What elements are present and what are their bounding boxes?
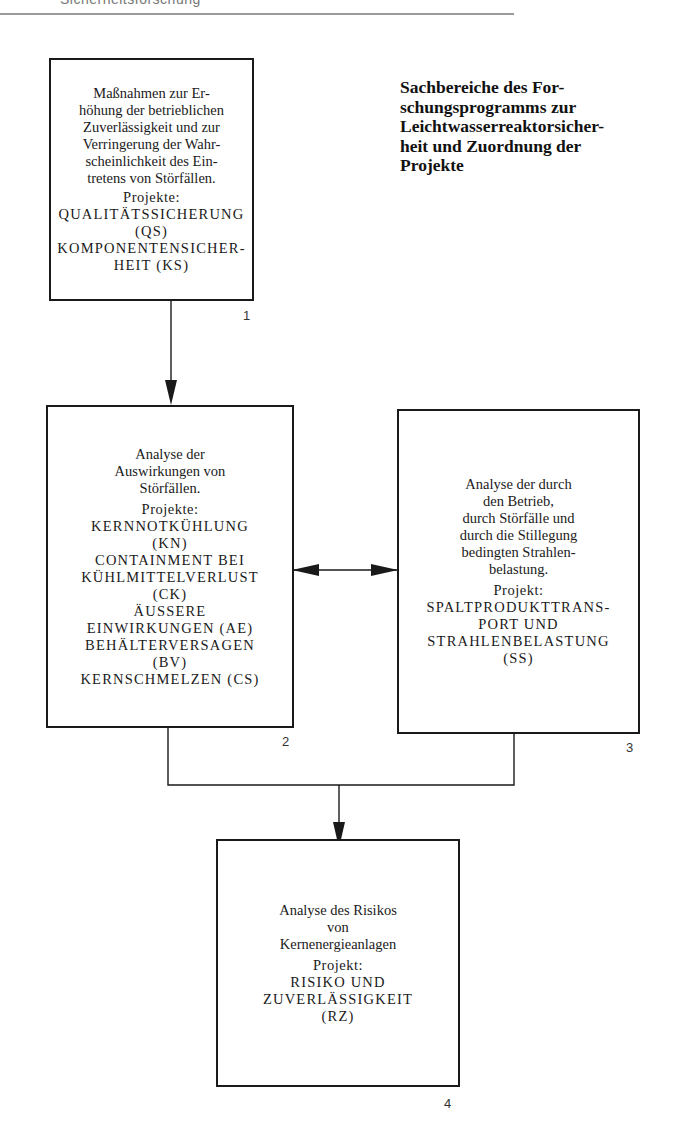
- box-3-number: 3: [626, 740, 633, 755]
- box-4-projects-label: Projekt:: [313, 957, 363, 974]
- title-line: schungsprogramms zur: [400, 98, 640, 118]
- desc-line: Zuverlässigkeit und zur: [79, 119, 224, 136]
- desc-line: durch die Stillegung: [460, 527, 578, 544]
- box-4-number: 4: [444, 1096, 451, 1111]
- arrowhead-toward-box3: [371, 564, 398, 576]
- arrowhead-toward-box2: [292, 564, 319, 576]
- box-2-accident-consequences: Analyse der Auswirkungen von Störfällen.…: [46, 405, 294, 728]
- project-line: ÄUSSERE: [80, 603, 259, 620]
- box-3-projects: SPALTPRODUKTTRANS- PORT UND STRAHLENBELA…: [426, 599, 610, 667]
- diagram-title: Sachbereiche des For- schungsprogramms z…: [400, 78, 640, 176]
- desc-line: durch Störfälle und: [460, 510, 578, 527]
- desc-line: Analyse des Risikos: [279, 902, 397, 919]
- box-2-description: Analyse der Auswirkungen von Störfällen.: [115, 446, 226, 497]
- box-1-quality-component-safety: Maßnahmen zur Er- höhung der betrieblich…: [49, 58, 254, 301]
- arrowhead-box2-top: [165, 380, 177, 405]
- box-2-projects: KERNNOTKÜHLUNG (KN) CONTAINMENT BEI KÜHL…: [80, 518, 259, 688]
- project-line: PORT UND: [426, 616, 610, 633]
- desc-line: belastung.: [460, 561, 578, 578]
- project-line: KERNNOTKÜHLUNG: [80, 518, 259, 535]
- desc-line: Auswirkungen von: [115, 463, 226, 480]
- project-line: SPALTPRODUKTTRANS-: [426, 599, 610, 616]
- desc-line: höhung der betrieblichen: [79, 102, 224, 119]
- box-2-projects-label: Projekte:: [142, 501, 199, 518]
- box-2-number: 2: [282, 734, 289, 749]
- project-line: (BV): [80, 654, 259, 671]
- project-line: RISIKO UND: [263, 974, 413, 991]
- box-4-projects: RISIKO UND ZUVERLÄSSIGKEIT (RZ): [263, 974, 413, 1025]
- desc-line: Maßnahmen zur Er-: [79, 85, 224, 102]
- project-line: (RZ): [263, 1008, 413, 1025]
- project-line: EINWIRKUNGEN (AE): [80, 620, 259, 637]
- box-3-description: Analyse der durch den Betrieb, durch Stö…: [460, 476, 578, 578]
- project-line: KERNSCHMELZEN (CS): [80, 671, 259, 688]
- desc-line: scheinlichkeit des Ein-: [79, 153, 224, 170]
- title-line: Projekte: [400, 156, 640, 176]
- project-line: KOMPONENTENSICHER-: [57, 240, 245, 257]
- merge-line-box2: [168, 728, 514, 785]
- box-4-risk-analysis: Analyse des Risikos von Kernenergieanlag…: [216, 839, 460, 1087]
- project-line: (QS): [57, 223, 245, 240]
- desc-line: Analyse der: [115, 446, 226, 463]
- desc-line: Kernenergieanlagen: [279, 936, 397, 953]
- desc-line: Analyse der durch: [460, 476, 578, 493]
- project-line: CONTAINMENT BEI: [80, 552, 259, 569]
- project-line: STRAHLENBELASTUNG: [426, 633, 610, 650]
- title-line: Leichtwasserreaktorsicher-: [400, 117, 640, 137]
- project-line: (CK): [80, 586, 259, 603]
- desc-line: Störfällen.: [115, 480, 226, 497]
- title-line: heit und Zuordnung der: [400, 137, 640, 157]
- desc-line: von: [279, 919, 397, 936]
- box-1-number: 1: [243, 308, 250, 323]
- box-1-projects: QUALITÄTSSICHERUNG (QS) KOMPONENTENSICHE…: [57, 206, 245, 274]
- project-line: (KN): [80, 535, 259, 552]
- box-3-radiation-exposure: Analyse der durch den Betrieb, durch Stö…: [397, 409, 640, 734]
- project-line: KÜHLMITTELVERLUST: [80, 569, 259, 586]
- title-line: Sachbereiche des For-: [400, 78, 640, 98]
- project-line: (SS): [426, 650, 610, 667]
- desc-line: tretens von Störfällen.: [79, 170, 224, 187]
- project-line: QUALITÄTSSICHERUNG: [57, 206, 245, 223]
- project-line: BEHÄLTERVERSAGEN: [80, 637, 259, 654]
- project-line: HEIT (KS): [57, 257, 245, 274]
- project-line: ZUVERLÄSSIGKEIT: [263, 991, 413, 1008]
- desc-line: bedingten Strahlen-: [460, 544, 578, 561]
- desc-line: den Betrieb,: [460, 493, 578, 510]
- desc-line: Verringerung der Wahr-: [79, 136, 224, 153]
- box-1-projects-label: Projekte:: [123, 189, 180, 206]
- box-3-projects-label: Projekt:: [494, 582, 544, 599]
- box-1-description: Maßnahmen zur Er- höhung der betrieblich…: [79, 85, 224, 187]
- box-4-description: Analyse des Risikos von Kernenergieanlag…: [279, 902, 397, 953]
